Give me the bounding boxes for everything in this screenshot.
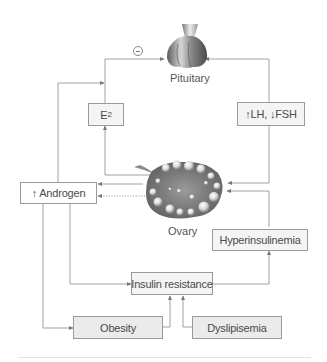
ovary-icon bbox=[134, 159, 226, 221]
hyperinsulinemia-box: Hyperinsulinemia bbox=[212, 229, 308, 251]
lh-fsh-label: ↑LH, ↓FSH bbox=[245, 108, 296, 120]
androgen-label: ↑ Androgen bbox=[32, 187, 86, 199]
e2-label: E bbox=[100, 109, 107, 121]
hyperinsulinemia-label: Hyperinsulinemia bbox=[219, 234, 300, 246]
insulin-resistance-label: Insulin resistance bbox=[131, 278, 212, 290]
ovary-label: Ovary bbox=[168, 225, 197, 237]
dyslipisemia-box: Dyslipisemia bbox=[192, 316, 282, 339]
e2-box: E2 bbox=[88, 103, 124, 126]
pcos-pathophysiology-diagram: Pituitary E2 ↑LH, ↓FSH bbox=[0, 0, 327, 362]
insulin-resistance-box: Insulin resistance bbox=[131, 272, 213, 295]
lh-fsh-box: ↑LH, ↓FSH bbox=[237, 102, 305, 126]
negative-feedback-icon bbox=[133, 46, 143, 56]
dyslipisemia-label: Dyslipisemia bbox=[207, 322, 266, 334]
androgen-box: ↑ Androgen bbox=[20, 182, 97, 204]
obesity-box: Obesity bbox=[73, 316, 163, 339]
pituitary-gland-icon bbox=[162, 22, 212, 70]
obesity-label: Obesity bbox=[100, 322, 136, 334]
divider-line bbox=[18, 357, 311, 358]
pituitary-label: Pituitary bbox=[170, 72, 210, 84]
e2-subscript: 2 bbox=[107, 110, 111, 119]
